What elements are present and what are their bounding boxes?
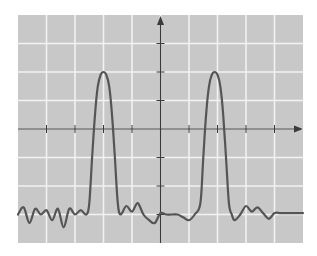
pulse-plot xyxy=(0,0,317,256)
oscilloscope-figure xyxy=(0,0,317,256)
